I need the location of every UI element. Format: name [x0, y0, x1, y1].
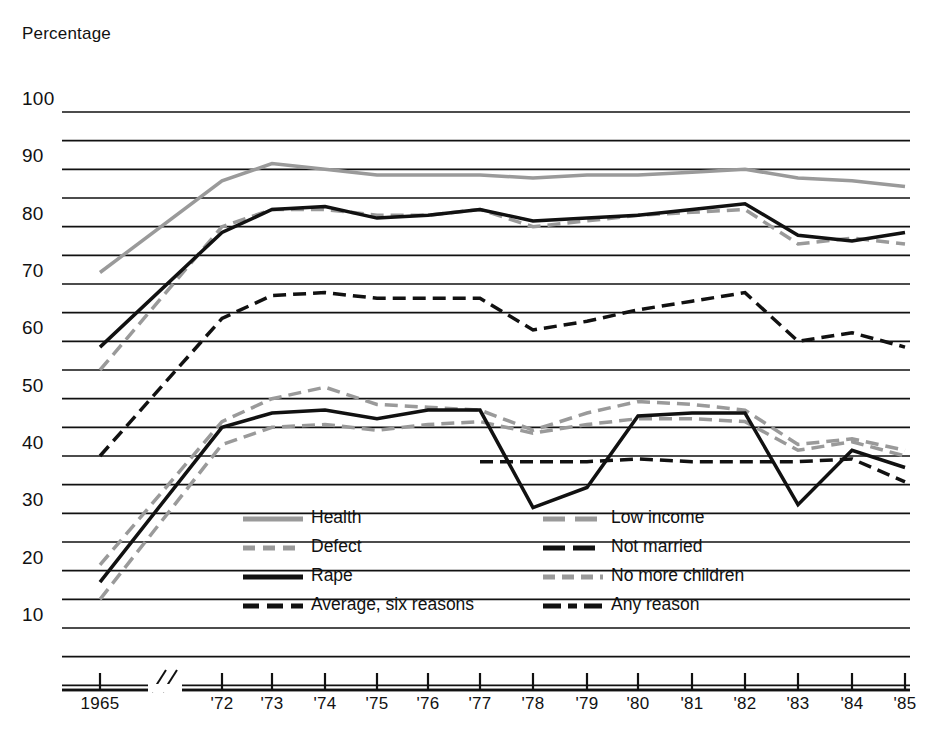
x-tick-82: '82 — [717, 694, 773, 714]
series-line-low-income — [100, 387, 905, 565]
x-tick-1965: 1965 — [72, 694, 128, 714]
y-tick-100: 100 — [22, 88, 55, 110]
x-tick-81: '81 — [664, 694, 720, 714]
legend-swatches — [243, 519, 603, 606]
series-line-rape — [100, 204, 905, 347]
y-tick-70: 70 — [22, 260, 44, 282]
x-tick-72: '72 — [194, 694, 250, 714]
chart-canvas — [0, 0, 946, 738]
x-tick-78: '78 — [505, 694, 561, 714]
legend-label-rape: Rape — [311, 565, 353, 586]
legend-label-not_married: Not married — [611, 536, 702, 557]
x-tick-84: '84 — [824, 694, 880, 714]
y-tick-50: 50 — [22, 375, 44, 397]
x-tick-79: '79 — [559, 694, 615, 714]
gridlines — [62, 112, 910, 685]
x-tick-75: '75 — [349, 694, 405, 714]
y-tick-80: 80 — [22, 203, 44, 225]
figure-root: Percentage 100908070605040302010 1965'72… — [0, 0, 946, 738]
y-tick-90: 90 — [22, 145, 44, 167]
x-tick-85: '85 — [877, 694, 933, 714]
series-line-any-reason — [100, 410, 905, 582]
series-group — [100, 164, 905, 600]
series-line-no-more-children — [100, 419, 905, 600]
legend-label-defect: Defect — [311, 536, 362, 557]
x-tick-77: '77 — [452, 694, 508, 714]
x-tick-73: '73 — [244, 694, 300, 714]
y-tick-10: 10 — [22, 604, 44, 626]
y-tick-30: 30 — [22, 489, 44, 511]
x-tick-83: '83 — [770, 694, 826, 714]
x-tick-74: '74 — [297, 694, 353, 714]
series-line-health — [100, 164, 905, 273]
legend-label-low_income: Low income — [611, 507, 704, 528]
legend-label-any_reason: Any reason — [611, 594, 700, 615]
y-tick-40: 40 — [22, 432, 44, 454]
legend-label-average: Average, six reasons — [311, 594, 474, 615]
y-tick-20: 20 — [22, 547, 44, 569]
x-tick-76: '76 — [400, 694, 456, 714]
y-tick-60: 60 — [22, 317, 44, 339]
x-tick-80: '80 — [610, 694, 666, 714]
legend-label-no_more_children: No more children — [611, 565, 744, 586]
legend-label-health: Health — [311, 507, 362, 528]
x-axis — [62, 670, 910, 692]
